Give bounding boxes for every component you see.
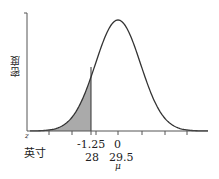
tick-x-mean: 29.5 xyxy=(109,152,134,163)
z-row-label: z xyxy=(25,133,29,140)
tick-x-cutoff: 28 xyxy=(85,152,99,163)
shaded-tail-area xyxy=(30,77,91,131)
x-ticks xyxy=(49,131,187,135)
x-row-label: 英寸 xyxy=(24,148,46,159)
tick-z-cutoff: -1.25 xyxy=(77,139,105,150)
density-curve xyxy=(30,20,208,131)
tick-z-mean: 0 xyxy=(114,139,121,150)
mu-label: μ xyxy=(115,162,121,171)
y-axis-label: 密度 xyxy=(8,55,23,77)
